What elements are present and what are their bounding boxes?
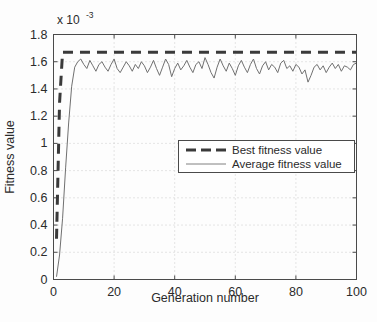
y-tick-label: 1.4 xyxy=(30,82,47,96)
legend[interactable]: Best fitness value Average fitness value xyxy=(179,141,355,173)
y-tick-label: 0 xyxy=(41,273,48,287)
y-axis-exponent-power: -3 xyxy=(86,10,94,20)
legend-label-best: Best fitness value xyxy=(232,144,322,156)
y-tick-labels: 00.20.40.60.811.21.41.61.8 xyxy=(30,28,47,287)
x-tick-label: 100 xyxy=(346,285,367,299)
y-axis-exponent-label: x 10 xyxy=(57,13,80,27)
y-axis-label: Fitness value xyxy=(3,120,17,194)
fitness-plot: 020406080100 00.20.40.60.811.21.41.61.8 … xyxy=(0,0,377,322)
x-tick-label: 20 xyxy=(107,285,121,299)
y-tick-label: 1.8 xyxy=(30,28,47,42)
y-tick-label: 0.4 xyxy=(30,218,47,232)
x-tick-label: 0 xyxy=(50,285,57,299)
y-tick-label: 1.2 xyxy=(30,109,47,123)
y-tick-label: 1 xyxy=(41,136,48,150)
x-tick-label: 80 xyxy=(289,285,303,299)
y-tick-label: 0.8 xyxy=(30,164,47,178)
y-tick-label: 0.2 xyxy=(30,245,47,259)
y-tick-label: 1.6 xyxy=(30,55,47,69)
y-tick-label: 0.6 xyxy=(30,191,47,205)
legend-label-average: Average fitness value xyxy=(232,158,342,170)
figure-canvas: 020406080100 00.20.40.60.811.21.41.61.8 … xyxy=(0,0,377,322)
x-axis-label: Generation number xyxy=(151,291,259,305)
